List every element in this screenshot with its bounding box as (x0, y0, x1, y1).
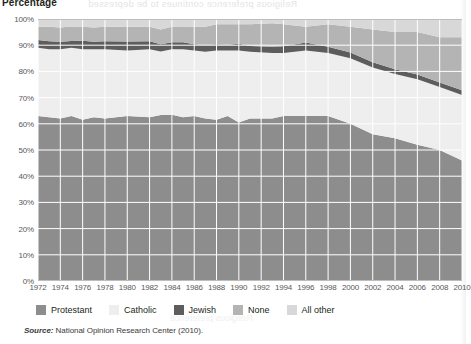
x-tick-label: 1974 (52, 283, 69, 292)
legend-label: Catholic (124, 305, 157, 315)
x-tick-label: 1980 (119, 283, 136, 292)
x-tick-label: 1996 (297, 283, 314, 292)
legend-item-protestant[interactable]: Protestant (36, 305, 92, 315)
source-text: National Opinion Research Center (2010). (53, 326, 203, 335)
x-tick-label: 1992 (253, 283, 270, 292)
x-tick-label: 2010 (454, 283, 471, 292)
source-keyword: Source: (24, 326, 53, 335)
legend-swatch-icon (287, 305, 297, 315)
y-tick-label: 80% (0, 67, 34, 76)
legend-swatch-icon (109, 305, 119, 315)
x-tick-label: 1976 (74, 283, 91, 292)
x-tick-label: 2004 (387, 283, 404, 292)
x-tick-label: 1972 (30, 283, 47, 292)
y-tick-label: 90% (0, 41, 34, 50)
x-tick-label: 1978 (96, 283, 113, 292)
x-tick-label: 1994 (275, 283, 292, 292)
legend-label: All other (302, 305, 335, 315)
x-tick-label: 1982 (141, 283, 158, 292)
legend-swatch-icon (36, 305, 46, 315)
y-tick-label: 10% (0, 250, 34, 259)
y-tick-label: 20% (0, 224, 34, 233)
y-tick-label: 70% (0, 93, 34, 102)
page-bleed-text: Religious preference continues to be dep… (88, 0, 297, 9)
legend-swatch-icon (174, 305, 184, 315)
area-band-protestant (38, 115, 462, 281)
legend-item-catholic[interactable]: Catholic (109, 305, 157, 315)
x-axis: 1972197419761978198019821984198619881990… (38, 283, 462, 297)
page-title: Percentage (2, 0, 57, 8)
stacked-area-chart (38, 19, 462, 281)
legend-item-jewish[interactable]: Jewish (174, 305, 217, 315)
legend-label: Protestant (51, 305, 92, 315)
x-tick-label: 1998 (320, 283, 337, 292)
y-tick-label: 50% (0, 146, 34, 155)
source-note: Source: National Opinion Research Center… (24, 326, 203, 335)
chart-canvas (38, 19, 462, 281)
x-tick-label: 1988 (208, 283, 225, 292)
x-tick-label: 1990 (230, 283, 247, 292)
x-tick-label: 2002 (364, 283, 381, 292)
y-tick-label: 60% (0, 119, 34, 128)
x-tick-label: 1984 (163, 283, 180, 292)
chart-legend: ProtestantCatholicJewishNoneAll other (36, 305, 352, 315)
y-tick-label: 40% (0, 172, 34, 181)
y-tick-label: 30% (0, 198, 34, 207)
x-tick-label: 2000 (342, 283, 359, 292)
x-tick-label: 2006 (409, 283, 426, 292)
y-tick-label: 100% (0, 15, 34, 24)
legend-label: None (248, 305, 270, 315)
legend-label: Jewish (189, 305, 217, 315)
x-tick-label: 1986 (186, 283, 203, 292)
legend-item-all-other[interactable]: All other (287, 305, 335, 315)
legend-swatch-icon (233, 305, 243, 315)
legend-item-none[interactable]: None (233, 305, 270, 315)
x-tick-label: 2008 (431, 283, 448, 292)
y-axis: 0%10%20%30%40%50%60%70%80%90%100% (0, 19, 34, 281)
